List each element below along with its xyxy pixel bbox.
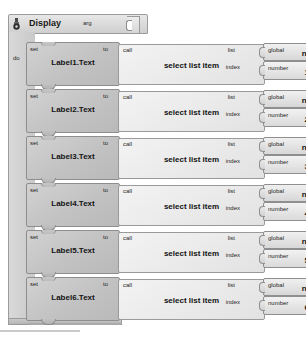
number-value-field[interactable]: 1: [305, 69, 306, 77]
set-to-label: to: [103, 281, 108, 287]
block-plug: [259, 47, 265, 58]
number-value-field[interactable]: 4: [305, 210, 306, 218]
block-plug: [259, 253, 265, 264]
number-keyword: number: [268, 112, 288, 118]
call-arg-index-label: index: [226, 205, 240, 211]
block-plug: [259, 235, 265, 246]
set-target-dropdown[interactable]: Label4.Text: [27, 200, 119, 208]
call-procedure-name[interactable]: select list item: [119, 250, 264, 258]
global-keyword: global: [268, 94, 284, 100]
global-variable-getter-block[interactable]: global nums: [263, 43, 306, 61]
set-target-dropdown[interactable]: Label5.Text: [27, 247, 119, 255]
global-variable-name[interactable]: nums: [302, 191, 306, 199]
global-variable-name[interactable]: nums: [302, 238, 306, 246]
statement-row[interactable]: set to Label6.Text call select list item…: [26, 277, 306, 324]
call-procedure-name[interactable]: select list item: [119, 297, 264, 305]
global-keyword: global: [268, 282, 284, 288]
set-property-block[interactable]: set to Label2.Text: [26, 89, 120, 133]
set-keyword: set: [30, 234, 38, 240]
set-property-block[interactable]: set to Label1.Text: [26, 42, 120, 86]
set-target-dropdown[interactable]: Label3.Text: [27, 153, 119, 161]
procedure-header[interactable]: Display arg: [8, 14, 148, 34]
set-property-block[interactable]: set to Label5.Text: [26, 230, 120, 274]
number-value-field[interactable]: 6: [305, 304, 306, 312]
global-variable-getter-block[interactable]: global nums: [263, 231, 306, 249]
mutator-gear-icon[interactable]: [11, 18, 22, 31]
call-arg-list-label: list: [228, 141, 235, 147]
set-target-dropdown[interactable]: Label1.Text: [27, 59, 119, 67]
procedure-name[interactable]: Display: [29, 19, 61, 28]
call-procedure-name[interactable]: select list item: [119, 109, 264, 117]
block-plug: [259, 65, 265, 76]
number-literal-block[interactable]: number 2: [263, 108, 306, 127]
procedure-arg-socket[interactable]: [127, 16, 140, 34]
number-keyword: number: [268, 300, 288, 306]
call-procedure-name[interactable]: select list item: [119, 62, 264, 70]
set-keyword: set: [30, 93, 38, 99]
number-literal-block[interactable]: number 4: [263, 202, 306, 221]
global-variable-getter-block[interactable]: global nums: [263, 90, 306, 108]
call-keyword: call: [123, 47, 132, 53]
call-procedure-block[interactable]: call select list item list index: [118, 138, 265, 179]
set-keyword: set: [30, 281, 38, 287]
block-plug: [259, 206, 265, 217]
global-variable-name[interactable]: nums: [302, 285, 306, 293]
set-keyword: set: [30, 46, 38, 52]
call-keyword: call: [123, 141, 132, 147]
set-to-label: to: [103, 187, 108, 193]
global-variable-name[interactable]: nums: [302, 50, 306, 58]
set-property-block[interactable]: set to Label6.Text: [26, 277, 120, 321]
global-keyword: global: [268, 141, 284, 147]
set-property-block[interactable]: set to Label3.Text: [26, 136, 120, 180]
statement-row[interactable]: set to Label4.Text call select list item…: [26, 183, 306, 230]
number-value-field[interactable]: 3: [305, 163, 306, 171]
call-procedure-block[interactable]: call select list item list index: [118, 232, 265, 273]
call-arg-index-label: index: [226, 111, 240, 117]
global-variable-getter-block[interactable]: global nums: [263, 137, 306, 155]
procedure-arg-label: arg: [83, 20, 92, 26]
call-procedure-block[interactable]: call select list item list index: [118, 279, 265, 320]
blocks-workspace-canvas[interactable]: Display arg do set to Label1.Text call s…: [0, 0, 306, 344]
procedure-do-label: do: [13, 55, 20, 61]
block-plug: [259, 300, 265, 311]
global-variable-getter-block[interactable]: global nums: [263, 184, 306, 202]
set-target-dropdown[interactable]: Label2.Text: [27, 106, 119, 114]
set-keyword: set: [30, 140, 38, 146]
global-keyword: global: [268, 235, 284, 241]
number-keyword: number: [268, 206, 288, 212]
global-variable-name[interactable]: nums: [302, 144, 306, 152]
call-procedure-block[interactable]: call select list item list index: [118, 44, 265, 85]
global-variable-name[interactable]: nums: [302, 97, 306, 105]
number-literal-block[interactable]: number 1: [263, 61, 306, 80]
call-procedure-name[interactable]: select list item: [119, 156, 264, 164]
call-keyword: call: [123, 282, 132, 288]
call-arg-list-label: list: [228, 188, 235, 194]
call-arg-index-label: index: [226, 299, 240, 305]
call-arg-list-label: list: [228, 235, 235, 241]
global-variable-getter-block[interactable]: global nums: [263, 278, 306, 296]
set-keyword: set: [30, 187, 38, 193]
statement-row[interactable]: set to Label2.Text call select list item…: [26, 89, 306, 136]
number-keyword: number: [268, 253, 288, 259]
call-keyword: call: [123, 94, 132, 100]
call-procedure-name[interactable]: select list item: [119, 203, 264, 211]
call-procedure-block[interactable]: call select list item list index: [118, 91, 265, 132]
statement-row[interactable]: set to Label3.Text call select list item…: [26, 136, 306, 183]
number-literal-block[interactable]: number 3: [263, 155, 306, 174]
statement-row[interactable]: set to Label1.Text call select list item…: [26, 42, 306, 89]
call-procedure-block[interactable]: call select list item list index: [118, 185, 265, 226]
number-literal-block[interactable]: number 5: [263, 249, 306, 268]
block-plug: [259, 159, 265, 170]
set-to-label: to: [103, 140, 108, 146]
number-literal-block[interactable]: number 6: [263, 296, 306, 315]
set-to-label: to: [103, 46, 108, 52]
number-value-field[interactable]: 2: [305, 116, 306, 124]
statement-row[interactable]: set to Label5.Text call select list item…: [26, 230, 306, 277]
call-arg-index-label: index: [226, 64, 240, 70]
call-arg-list-label: list: [228, 94, 235, 100]
set-property-block[interactable]: set to Label4.Text: [26, 183, 120, 227]
block-plug: [259, 94, 265, 105]
block-plug: [259, 141, 265, 152]
set-target-dropdown[interactable]: Label6.Text: [27, 294, 119, 302]
number-value-field[interactable]: 5: [305, 257, 306, 265]
